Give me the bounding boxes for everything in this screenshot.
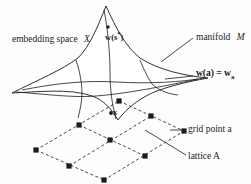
- w-of-a-equation: w(a) = w: [196, 68, 231, 78]
- w-s-star-label: w(s*): [105, 31, 123, 41]
- lattice-a-label: lattice A: [188, 152, 220, 162]
- point-w-s-star-marker: [106, 25, 109, 28]
- w-s-star-prefix: w(s: [105, 32, 117, 42]
- lattice-point: [107, 137, 112, 142]
- w-of-a-subscript: a: [231, 73, 234, 80]
- lattice-point: [142, 153, 147, 158]
- lattice-grid-points: [33, 98, 186, 182]
- grid-point-a-label: grid point a: [188, 125, 232, 135]
- manifold-lattice-figure: embedding space X w(s*) manifold M w(a) …: [0, 0, 251, 184]
- w-s-star-suffix: ): [121, 32, 124, 42]
- embedding-space-label: embedding space X: [12, 35, 90, 45]
- embedding-space-symbol: X: [84, 34, 90, 44]
- lattice-point: [33, 147, 38, 152]
- lattice-point: [116, 98, 121, 103]
- lattice-point: [76, 122, 81, 127]
- manifold-leader: [161, 38, 193, 62]
- manifold-text: manifold: [196, 32, 230, 42]
- lattice-point: [101, 177, 106, 182]
- manifold-label: manifold M: [196, 33, 245, 43]
- manifold-symbol: M: [237, 32, 245, 42]
- lattice-point: [66, 163, 71, 168]
- point-x-label: x: [113, 108, 117, 117]
- lattice-point-grid-point-a: [181, 128, 186, 133]
- embedding-space-text: embedding space: [12, 34, 78, 44]
- lattice-point: [148, 113, 153, 118]
- label-leader-lines: [145, 38, 193, 155]
- w-of-a-label: w(a) = wa: [196, 69, 234, 81]
